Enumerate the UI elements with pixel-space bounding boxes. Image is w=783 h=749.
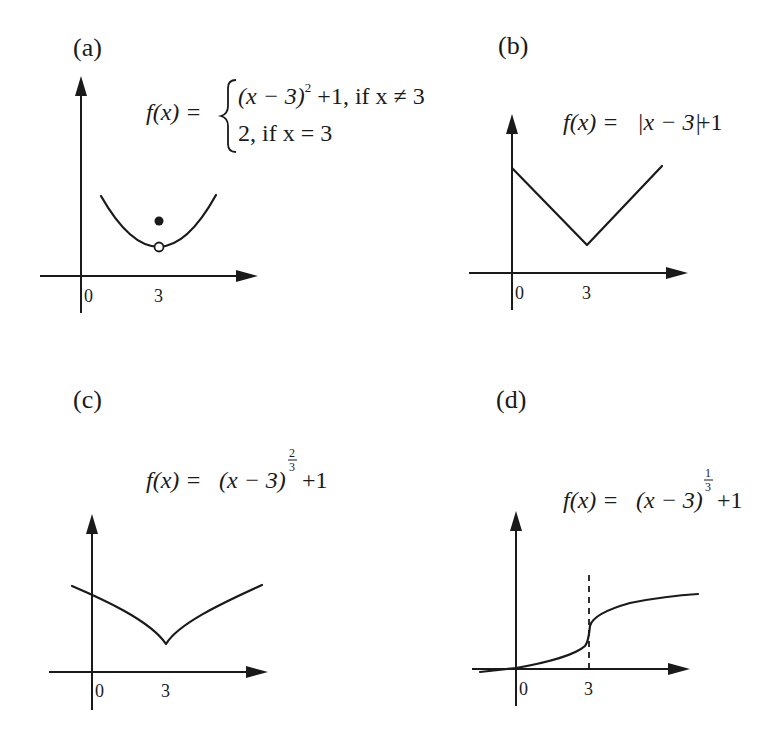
formula-c-exp-num: 2 <box>289 446 295 460</box>
y-axis-arrow-icon <box>510 511 522 531</box>
formula-d-expr: (x − 3) <box>636 487 703 513</box>
formula-a: f(x) = (x − 3)2 +1, if x ≠ 3 2, if x = 3 <box>146 80 425 152</box>
abs-value-curve <box>512 166 662 245</box>
panel-label-b: (b) <box>498 31 528 60</box>
filled-point-icon <box>155 217 164 226</box>
panel-a: (a) f(x) = (x − 3)2 +1, if x ≠ 3 2, if x… <box>40 33 425 313</box>
brace-icon <box>221 80 236 152</box>
open-point-icon <box>155 243 164 252</box>
panel-b: (b) f(x) = |x − 3| +1 0 3 <box>469 31 723 310</box>
tick-label-3: 3 <box>154 286 163 306</box>
y-axis-arrow-icon <box>75 76 87 96</box>
formula-a-lhs: f(x) = <box>146 99 202 125</box>
x-axis-arrow-icon <box>246 666 268 678</box>
formula-b-expr: |x − 3| <box>637 109 701 135</box>
tick-label-3: 3 <box>161 681 170 701</box>
formula-a-case1: (x − 3)2 +1, if x ≠ 3 <box>238 80 425 109</box>
tick-label-0: 0 <box>519 679 528 699</box>
x-axis-arrow-icon <box>668 663 690 675</box>
panel-label-a: (a) <box>73 33 102 62</box>
panel-d: (d) f(x) = (x − 3) 1 3 +1 0 3 <box>472 385 743 706</box>
formula-c-expr: (x − 3) <box>219 467 286 493</box>
tick-label-0: 0 <box>515 283 524 303</box>
tick-label-3: 3 <box>582 283 591 303</box>
x-axis-arrow-icon <box>666 267 688 279</box>
y-axis-arrow-icon <box>506 114 518 134</box>
cube-root-curve <box>480 594 698 672</box>
formula-d: f(x) = (x − 3) 1 3 +1 <box>563 466 743 513</box>
cusp-curve <box>72 585 262 644</box>
formula-c-lhs: f(x) = <box>146 467 202 493</box>
formula-c-exp-den: 3 <box>289 460 295 474</box>
tick-label-0: 0 <box>95 681 104 701</box>
formula-d-tail: +1 <box>717 487 743 513</box>
tick-label-0: 0 <box>84 286 93 306</box>
formula-d-lhs: f(x) = <box>563 487 619 513</box>
x-axis-arrow-icon <box>236 270 258 282</box>
panel-label-d: (d) <box>496 385 526 414</box>
formula-b-lhs: f(x) = <box>563 109 619 135</box>
formula-b-tail: +1 <box>697 109 723 135</box>
y-axis-arrow-icon <box>86 514 98 534</box>
formula-c: f(x) = (x − 3) 2 3 +1 <box>146 446 328 493</box>
formula-d-exp-num: 1 <box>705 466 711 480</box>
formula-b: f(x) = |x − 3| +1 <box>563 109 723 135</box>
formula-a-case2: 2, if x = 3 <box>238 120 332 146</box>
panel-label-c: (c) <box>73 385 102 414</box>
formula-d-exp-den: 3 <box>705 480 711 494</box>
panel-c: (c) f(x) = (x − 3) 2 3 +1 0 3 <box>49 385 328 710</box>
formula-c-tail: +1 <box>302 467 328 493</box>
figure-canvas: (a) f(x) = (x − 3)2 +1, if x ≠ 3 2, if x… <box>0 0 783 749</box>
tick-label-3: 3 <box>584 679 593 699</box>
